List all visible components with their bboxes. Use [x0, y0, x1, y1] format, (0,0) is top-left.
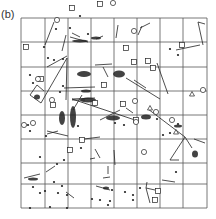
circle-marker [30, 120, 35, 125]
dot-marker [107, 204, 109, 206]
dot-marker [62, 85, 64, 87]
square-marker [51, 103, 56, 108]
dot-marker [29, 130, 31, 132]
trajectory-segment [62, 35, 66, 51]
square-marker [151, 66, 156, 71]
square-marker [156, 189, 161, 194]
trajectory-segment [116, 25, 118, 38]
dot-marker [32, 186, 34, 188]
dot-marker [29, 207, 31, 209]
dot-marker [177, 54, 179, 56]
square-marker [180, 43, 185, 48]
square-marker [153, 198, 158, 203]
dot-marker [45, 135, 47, 137]
trajectory-segment [66, 58, 67, 100]
trajectory-cluster [34, 95, 40, 100]
circle-marker [54, 17, 59, 22]
square-marker [70, 6, 75, 11]
dot-marker [114, 122, 116, 124]
dot-marker [77, 125, 79, 127]
dot-marker [59, 91, 61, 93]
dot-marker [29, 74, 31, 76]
dot-marker [80, 147, 82, 149]
dot-marker [156, 118, 158, 120]
dot-marker [56, 163, 58, 165]
square-marker [121, 102, 126, 107]
trajectory-segment [157, 63, 168, 94]
trajectory-segment [37, 85, 44, 91]
dot-marker [53, 59, 55, 61]
trajectory-segments [24, 22, 205, 203]
dot-marker [69, 27, 71, 29]
circle-marker [169, 117, 174, 122]
trajectory-segment [103, 177, 110, 178]
dot-marker [27, 124, 29, 126]
dot-marker [87, 33, 89, 35]
circle-marker [131, 28, 136, 33]
trajectory-segment [140, 23, 150, 28]
dot-marker [169, 48, 171, 50]
trajectory-segment [24, 174, 40, 178]
square-marker [132, 60, 137, 65]
square-marker [124, 46, 129, 51]
trajectory-segment [72, 33, 80, 37]
circle-marker [141, 149, 146, 154]
dot-marker [123, 124, 125, 126]
square-marker [146, 59, 151, 64]
circle-marker [200, 87, 205, 92]
triangle-marker [148, 106, 153, 111]
trajectory-segment [95, 64, 112, 65]
circle-marker [49, 97, 54, 102]
trajectory-cluster [72, 40, 88, 43]
trajectory-cluster [77, 71, 91, 77]
trajectory-cluster [70, 106, 76, 128]
trajectory-segment [64, 87, 95, 88]
square-marker [98, 2, 103, 7]
dot-marker [111, 189, 113, 191]
trajectory-segment [198, 22, 203, 45]
dot-marker [39, 192, 41, 194]
dot-marker [47, 57, 49, 59]
trajectory-segment [198, 22, 205, 24]
trajectory-cluster [91, 37, 101, 40]
dot-marker [175, 171, 177, 173]
square-marker [102, 83, 107, 88]
dot-marker [61, 185, 63, 187]
dot-marker [44, 190, 46, 192]
dot-marker [53, 181, 55, 183]
trajectory-segment [45, 22, 54, 45]
trajectory-segment [146, 182, 147, 188]
dot-marker [124, 191, 126, 193]
square-marker [93, 101, 98, 106]
dot-marker [132, 199, 134, 201]
triangle-marker [190, 92, 195, 97]
trajectory-cluster [113, 71, 125, 78]
trajectory-segment [146, 188, 150, 203]
circle-marker [153, 109, 158, 114]
trajectory-segment [95, 149, 100, 158]
square-marker [80, 138, 85, 143]
dot-marker [132, 194, 134, 196]
dot-marker [109, 200, 111, 202]
trajectory-segment [103, 67, 108, 77]
trajectory-cluster [59, 111, 65, 125]
dot-marker [169, 132, 171, 134]
dot-marker [49, 206, 51, 208]
dot-marker [66, 194, 68, 196]
circle-marker [133, 119, 138, 124]
trajectory-cluster [81, 90, 91, 93]
circle-marker [132, 98, 137, 103]
trajectory-segment [162, 180, 175, 182]
dot-marker [63, 159, 65, 161]
dot-marker [62, 58, 64, 60]
trajectory-cluster [103, 187, 109, 190]
trajectory-cluster [192, 151, 198, 158]
dot-marker [32, 82, 34, 84]
circle-marker [35, 76, 40, 81]
square-marker [68, 148, 73, 153]
trajectory-grid-figure [0, 0, 216, 219]
circle-marker [21, 122, 26, 127]
dot-marker [43, 46, 45, 48]
trajectory-segment [126, 108, 133, 113]
square-marker [24, 45, 29, 50]
